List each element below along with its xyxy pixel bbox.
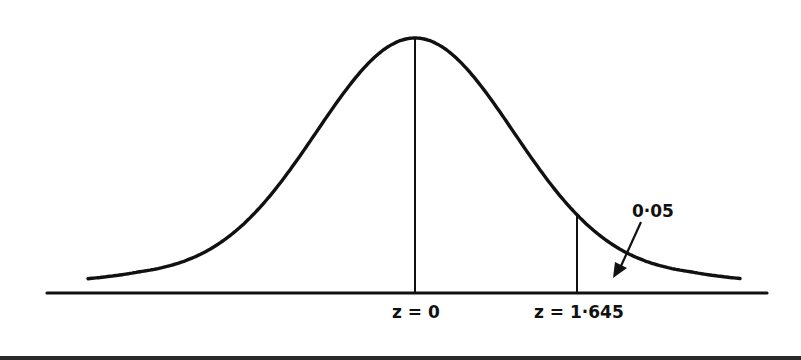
label-z1645: z = 1·645 [534,302,624,322]
normal-distribution-figure: z = 0 z = 1·645 0·05 [0,0,801,360]
label-z0: z = 0 [392,302,440,322]
diagram-canvas: z = 0 z = 1·645 0·05 [0,0,801,360]
bottom-edge-strip [0,356,801,360]
tail-area-arrow-icon [613,222,641,278]
label-tail-area: 0·05 [632,201,674,221]
